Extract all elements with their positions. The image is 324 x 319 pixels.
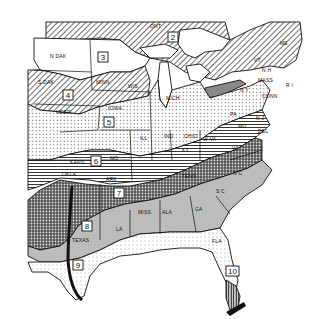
label-ala: ALA [162, 209, 173, 215]
label-ny: N Y [240, 87, 249, 93]
label-wis: WIS [128, 83, 139, 89]
svg-text:6: 6 [94, 157, 99, 166]
label-miss: MISS [138, 209, 151, 215]
zone-4-marker: 4 [63, 90, 73, 100]
label-md: MD [238, 123, 246, 129]
svg-text:3: 3 [101, 53, 106, 62]
label-ark: ARK [106, 176, 117, 182]
zone-3-marker: 3 [98, 52, 108, 62]
label-la: LA [116, 226, 123, 232]
label-okla: OKLA [62, 171, 77, 177]
label-mo: MO [110, 155, 118, 161]
zone-map: N DAK S DAK NEBR MINN WIS IOWA KANS MO O… [0, 0, 324, 319]
svg-text:5: 5 [107, 118, 112, 127]
label-ind: IND [164, 133, 173, 139]
label-sc: S C [216, 188, 225, 194]
svg-text:7: 7 [117, 189, 122, 198]
label-mass: MASS [258, 77, 273, 83]
label-ont: ONT [150, 23, 161, 29]
label-kans: KANS [70, 159, 85, 165]
label-iowa: IOWA [108, 105, 122, 111]
label-del: DEL [258, 128, 268, 134]
label-conn: CONN [262, 93, 278, 99]
zone-5-marker: 5 [104, 117, 114, 127]
svg-text:2: 2 [171, 33, 176, 42]
svg-text:8: 8 [85, 222, 90, 231]
label-nebr: NEBR [56, 109, 71, 115]
zone-10-marker: 10 [226, 266, 239, 276]
zone-6-marker: 6 [91, 156, 101, 166]
zone-2-marker: 2 [168, 32, 178, 42]
label-pa: PA [230, 111, 237, 117]
label-n-dak: N DAK [50, 53, 67, 59]
zone-9-marker: 9 [73, 260, 83, 270]
svg-text:10: 10 [228, 267, 237, 276]
zone-7-marker: 7 [114, 188, 124, 198]
label-nc: N C [233, 170, 242, 176]
label-nj: N J [256, 115, 264, 121]
svg-text:4: 4 [66, 91, 71, 100]
label-ky: KY [182, 147, 190, 153]
svg-text:9: 9 [76, 261, 81, 270]
label-ill: ILL [140, 135, 148, 141]
label-fla: FLA [212, 238, 222, 244]
label-ri: R I [286, 82, 293, 88]
label-nh: N H [262, 67, 271, 73]
label-s-dak: S DAK [38, 79, 54, 85]
label-minn: MINN [96, 79, 110, 85]
label-ga: GA [195, 206, 203, 212]
zone-8-marker: 8 [82, 221, 92, 231]
label-wva: W VA [203, 136, 217, 142]
label-ohio: OHIO [184, 133, 198, 139]
label-me: ME [280, 40, 288, 46]
label-vt: VT [254, 57, 261, 63]
label-texas: TEXAS [72, 237, 90, 243]
label-mich: MICH [166, 95, 180, 101]
label-va: VA [232, 145, 239, 151]
label-tenn: TENN [182, 173, 197, 179]
